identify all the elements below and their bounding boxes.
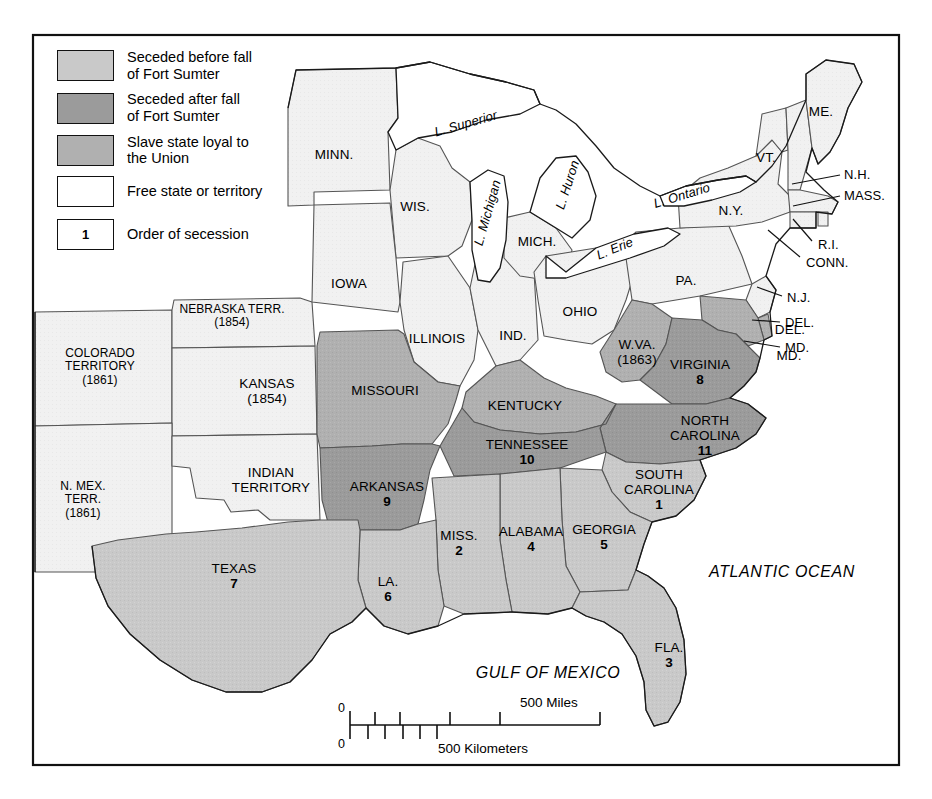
legend-label-order-of-secession: Order of secession — [127, 226, 249, 243]
georgia-name: GEORGIA — [572, 522, 636, 537]
south-carolina-order-number: 1 — [624, 498, 694, 513]
lake-superior-shape — [388, 62, 540, 150]
iowa-shape — [312, 203, 400, 312]
vermont-label: VT. — [756, 150, 776, 165]
legend-label-seceded-after: Seceded after fall of Fort Sumter — [127, 91, 240, 124]
kansas-label: KANSAS(1854) — [239, 376, 294, 406]
legend-item-slave-loyal: Slave state loyal to the Union — [57, 134, 297, 167]
legend-item-seceded-after: Seceded after fall of Fort Sumter — [57, 91, 297, 124]
nebraska-territory-name: NEBRASKA TERR. — [179, 303, 284, 316]
seceded-after-swatch — [57, 93, 114, 124]
free-state-swatch — [57, 176, 114, 207]
texas-label: TEXAS7 — [212, 561, 257, 591]
florida-order-number: 3 — [655, 655, 684, 670]
scale-km-zero: 0 — [338, 737, 345, 751]
minnesota-label: MINN. — [315, 147, 354, 162]
tennessee-order-number: 10 — [486, 452, 569, 467]
florida-name: FLA. — [655, 640, 684, 655]
delaware-pointer: DEL. — [785, 316, 814, 331]
louisiana-label: LA.6 — [378, 574, 399, 604]
kentucky-label: KENTUCKY — [488, 398, 562, 413]
legend-item-free-state: Free state or territory — [57, 176, 297, 207]
ohio-label: OHIO — [563, 304, 598, 319]
north-carolina-order-number: 11 — [670, 444, 740, 459]
maryland-pointer: MD. — [785, 341, 809, 356]
minnesota-shape — [288, 68, 398, 206]
scale-miles-label: 500 Miles — [520, 695, 578, 710]
louisiana-shape — [358, 520, 444, 634]
south-carolina-name: SOUTH — [624, 467, 694, 482]
new-jersey-label: N.J. — [787, 291, 811, 306]
legend-item-seceded-before: Seceded before fall of Fort Sumter — [57, 49, 297, 82]
north-carolina-label: NORTHCAROLINA11 — [670, 413, 740, 458]
louisiana-order-number: 6 — [378, 589, 399, 604]
iowa-label: IOWA — [331, 276, 367, 291]
wisconsin-label: WIS. — [400, 199, 430, 214]
kansas-name: KANSAS — [239, 376, 294, 391]
indian-territory-label: INDIANTERRITORY — [232, 465, 310, 495]
atlantic-ocean-label: ATLANTIC OCEAN — [709, 563, 855, 581]
louisiana-name: LA. — [378, 574, 399, 589]
ohio-name: OHIO — [563, 304, 598, 319]
illinois-name: ILLINOIS — [409, 331, 465, 346]
colorado-territory-date: (1861) — [65, 374, 135, 387]
maine-name: ME. — [809, 104, 833, 119]
mississippi-name: MISS. — [440, 528, 477, 543]
new-hampshire-label: N.H. — [844, 168, 870, 183]
massachusetts-label: MASS. — [844, 189, 885, 204]
texas-shape — [92, 520, 366, 692]
gulf-of-mexico-label: GULF OF MEXICO — [476, 664, 621, 682]
pennsylvania-label: PA. — [675, 273, 696, 288]
kansas-date: (1854) — [239, 391, 294, 406]
virginia-order-number: 8 — [670, 372, 730, 387]
michigan-name: MICH. — [518, 234, 557, 249]
wisconsin-name: WIS. — [400, 199, 430, 214]
mississippi-order-number: 2 — [440, 543, 477, 558]
south-carolina-label: SOUTHCAROLINA1 — [624, 467, 694, 512]
legend-label-seceded-before: Seceded before fall of Fort Sumter — [127, 49, 252, 82]
north-carolina-name: CAROLINA — [670, 428, 740, 443]
order-of-secession-swatch: 1 — [57, 219, 114, 250]
arkansas-name: ARKANSAS — [350, 479, 424, 494]
north-carolina-name: NORTH — [670, 413, 740, 428]
colorado-territory-name: TERRITORY — [65, 360, 135, 373]
west-virginia-name: W.VA. — [617, 337, 657, 352]
new-mexico-territory-name: TERR. — [60, 493, 105, 506]
map-container: Seceded before fall of Fort Sumter Seced… — [0, 0, 932, 799]
new-mexico-territory-name: N. MEX. — [60, 480, 105, 493]
legend-label-slave-loyal: Slave state loyal to the Union — [127, 134, 249, 167]
new-mexico-territory-date: (1861) — [60, 507, 105, 520]
nebraska-territory-date: (1854) — [179, 316, 284, 329]
colorado-territory-name: COLORADO — [65, 347, 135, 360]
kentucky-name: KENTUCKY — [488, 398, 562, 413]
new-york-name: N.Y. — [719, 203, 744, 218]
indian-territory-name: TERRITORY — [232, 480, 310, 495]
new-york-label: N.Y. — [719, 203, 744, 218]
texas-name: TEXAS — [212, 561, 257, 576]
virginia-label: VIRGINIA8 — [670, 357, 730, 387]
scale-miles-zero: 0 — [338, 701, 345, 715]
rhode-island-label: R.I. — [818, 238, 839, 253]
iowa-name: IOWA — [331, 276, 367, 291]
seceded-before-swatch — [57, 50, 114, 81]
missouri-label: MISSOURI — [351, 383, 419, 398]
new-mexico-territory-label: N. MEX.TERR.(1861) — [60, 480, 105, 520]
maine-label: ME. — [809, 104, 833, 119]
arkansas-label: ARKANSAS9 — [350, 479, 424, 509]
michigan-label: MICH. — [518, 234, 557, 249]
kentucky-shape — [462, 360, 616, 434]
pennsylvania-name: PA. — [675, 273, 696, 288]
indian-territory-name: INDIAN — [232, 465, 310, 480]
virginia-name: VIRGINIA — [670, 357, 730, 372]
tennessee-name: TENNESSEE — [486, 437, 569, 452]
alabama-label: ALABAMA4 — [499, 524, 563, 554]
nebraska-territory-label: NEBRASKA TERR.(1854) — [179, 303, 284, 330]
legend: Seceded before fall of Fort Sumter Seced… — [57, 49, 297, 259]
legend-item-order-of-secession: 1 Order of secession — [57, 219, 297, 250]
texas-order-number: 7 — [212, 576, 257, 591]
mississippi-label: MISS.2 — [440, 528, 477, 558]
missouri-name: MISSOURI — [351, 383, 419, 398]
minnesota-name: MINN. — [315, 147, 354, 162]
wisconsin-shape — [390, 138, 472, 258]
colorado-territory-label: COLORADOTERRITORY(1861) — [65, 347, 135, 387]
